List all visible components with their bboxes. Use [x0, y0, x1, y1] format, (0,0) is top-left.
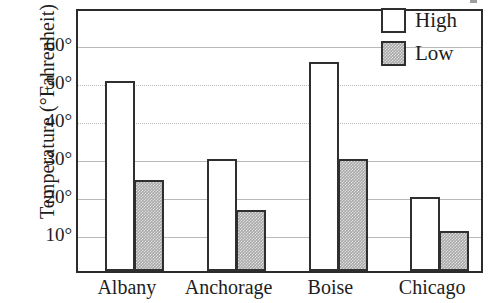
- bar-albany-high: [105, 81, 135, 271]
- x-label-boise: Boise: [280, 274, 382, 300]
- y-tick-label-60: 60°: [26, 35, 72, 54]
- y-tick-label-20: 20°: [26, 187, 72, 206]
- legend-label-high: High: [415, 10, 457, 31]
- bar-albany-low: [134, 180, 164, 271]
- legend-label-low: Low: [415, 43, 454, 64]
- x-label-chicago: Chicago: [381, 274, 483, 300]
- legend: High Low: [381, 4, 489, 70]
- bar-boise-low: [338, 159, 368, 271]
- gridline-30: [78, 161, 481, 162]
- bar-anchorage-low: [236, 210, 266, 271]
- bar-chart-figure: Temperature (°Fahrenheit) 10°20°30°40°50…: [0, 0, 495, 303]
- gridline-40: [78, 123, 481, 124]
- y-axis-tick-labels: 10°20°30°40°50°60°: [24, 0, 72, 303]
- y-tick-label-30: 30°: [26, 149, 72, 168]
- legend-item-high: High: [381, 4, 489, 37]
- x-axis-category-labels: AlbanyAnchorageBoiseChicago: [76, 274, 483, 303]
- scan-artifact: [470, 0, 477, 3]
- legend-item-low: Low: [381, 37, 489, 70]
- bar-anchorage-high: [207, 159, 237, 271]
- gridline-50: [78, 85, 481, 86]
- legend-swatch-high-icon: [381, 8, 406, 33]
- bar-boise-high: [309, 62, 339, 271]
- x-label-anchorage: Anchorage: [178, 274, 280, 300]
- x-label-albany: Albany: [76, 274, 178, 300]
- y-tick-label-10: 10°: [26, 225, 72, 244]
- legend-swatch-low-icon: [381, 41, 406, 66]
- y-tick-label-40: 40°: [26, 111, 72, 130]
- bar-chicago-low: [439, 231, 469, 271]
- bar-chicago-high: [410, 197, 440, 271]
- y-tick-label-50: 50°: [26, 73, 72, 92]
